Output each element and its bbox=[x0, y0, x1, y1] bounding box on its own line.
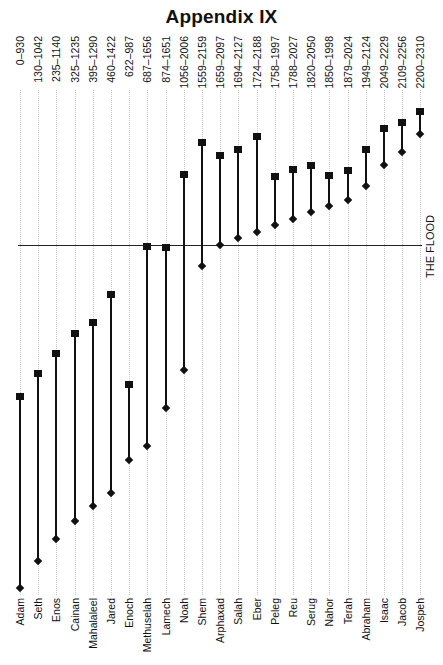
range-label: 622–987 bbox=[123, 36, 135, 77]
death-marker-square bbox=[289, 166, 297, 173]
lifespan-bar bbox=[383, 128, 385, 165]
death-marker-square bbox=[216, 152, 224, 159]
name-label: Peleg bbox=[269, 598, 281, 625]
range-label: 1850–1998 bbox=[323, 36, 335, 89]
birth-marker-diamond bbox=[161, 403, 169, 411]
name-label: Jospeh bbox=[414, 598, 426, 632]
range-label: 687–1656 bbox=[141, 36, 153, 83]
lifespan-bar bbox=[365, 149, 367, 185]
death-marker-square bbox=[416, 108, 424, 115]
name-label: Nahor bbox=[323, 598, 335, 627]
birth-marker-diamond bbox=[198, 262, 206, 270]
death-marker-square bbox=[344, 167, 352, 174]
birth-marker-diamond bbox=[89, 502, 97, 510]
name-label: Methuselah bbox=[141, 598, 153, 652]
birth-marker-diamond bbox=[307, 208, 315, 216]
name-label: Enoch bbox=[123, 598, 135, 628]
death-marker-square bbox=[52, 350, 60, 357]
birth-marker-diamond bbox=[416, 129, 424, 137]
birth-marker-diamond bbox=[343, 196, 351, 204]
range-label: 1758–1997 bbox=[269, 36, 281, 89]
birth-marker-diamond bbox=[107, 489, 115, 497]
name-label: Cainan bbox=[69, 598, 81, 631]
range-label: 0–930 bbox=[14, 36, 26, 65]
birth-marker-diamond bbox=[289, 215, 297, 223]
death-marker-square bbox=[380, 125, 388, 132]
range-label: 1724–2188 bbox=[251, 36, 263, 89]
name-label: Seth bbox=[32, 598, 44, 620]
name-label: Lamech bbox=[160, 598, 172, 635]
range-label: 2109–2256 bbox=[396, 36, 408, 89]
flood-label: THE FLOOD bbox=[424, 215, 436, 278]
death-marker-square bbox=[325, 172, 333, 179]
name-label: Isaac bbox=[378, 598, 390, 623]
birth-marker-diamond bbox=[125, 455, 133, 463]
timeline-plot: THE FLOOD0–930Adam130–1042Seth235–1140En… bbox=[0, 0, 443, 665]
lifespan-bar bbox=[37, 373, 39, 561]
range-label: 1694–2127 bbox=[232, 36, 244, 89]
lifespan-bar bbox=[292, 169, 294, 218]
lifespan-bar bbox=[92, 322, 94, 507]
range-label: 395–1290 bbox=[87, 36, 99, 83]
range-label: 1820–2050 bbox=[305, 36, 317, 89]
name-label: Reu bbox=[287, 598, 299, 617]
birth-marker-diamond bbox=[234, 234, 242, 242]
range-label: 130–1042 bbox=[32, 36, 44, 83]
range-label: 2049–2229 bbox=[378, 36, 390, 89]
name-label: Adam bbox=[14, 598, 26, 625]
grid-line bbox=[402, 90, 403, 595]
birth-marker-diamond bbox=[16, 584, 24, 592]
range-label: 1056–2006 bbox=[178, 36, 190, 89]
birth-marker-diamond bbox=[380, 161, 388, 169]
name-label: Jacob bbox=[396, 598, 408, 626]
range-label: 325–1235 bbox=[69, 36, 81, 83]
lifespan-bar bbox=[274, 176, 276, 225]
lifespan-bar bbox=[310, 165, 312, 212]
name-label: Shem bbox=[196, 598, 208, 625]
name-label: Terah bbox=[342, 598, 354, 624]
grid-line bbox=[275, 90, 276, 595]
lifespan-bar bbox=[74, 333, 76, 521]
birth-marker-diamond bbox=[180, 366, 188, 374]
name-label: Salah bbox=[232, 598, 244, 625]
range-label: 1788–2027 bbox=[287, 36, 299, 89]
name-label: Jared bbox=[105, 598, 117, 624]
lifespan-bar bbox=[201, 142, 203, 266]
lifespan-bar bbox=[110, 294, 112, 493]
birth-marker-diamond bbox=[252, 228, 260, 236]
death-marker-square bbox=[271, 173, 279, 180]
lifespan-bar bbox=[183, 174, 185, 370]
range-label: 1879–2024 bbox=[342, 36, 354, 89]
death-marker-square bbox=[234, 146, 242, 153]
grid-line bbox=[420, 90, 421, 595]
range-label: 460–1422 bbox=[105, 36, 117, 83]
grid-line bbox=[348, 90, 349, 595]
lifespan-bar bbox=[128, 384, 130, 459]
death-marker-square bbox=[34, 370, 42, 377]
birth-marker-diamond bbox=[143, 442, 151, 450]
death-marker-square bbox=[253, 133, 261, 140]
grid-line bbox=[329, 90, 330, 595]
name-label: Arphaxad bbox=[214, 598, 226, 643]
death-marker-square bbox=[198, 139, 206, 146]
range-label: 1949–2124 bbox=[360, 36, 372, 89]
lifespan-bar bbox=[146, 246, 148, 446]
lifespan-bar bbox=[165, 247, 167, 407]
lifespan-bar bbox=[256, 136, 258, 232]
death-marker-square bbox=[398, 119, 406, 126]
name-label: Serug bbox=[305, 598, 317, 626]
death-marker-square bbox=[162, 244, 170, 251]
death-marker-square bbox=[125, 381, 133, 388]
name-label: Noah bbox=[178, 598, 190, 623]
birth-marker-diamond bbox=[398, 148, 406, 156]
death-marker-square bbox=[362, 146, 370, 153]
death-marker-square bbox=[107, 291, 115, 298]
birth-marker-diamond bbox=[271, 221, 279, 229]
lifespan-bar bbox=[219, 155, 221, 245]
range-label: 1559–2159 bbox=[196, 36, 208, 89]
name-label: Enos bbox=[50, 598, 62, 622]
birth-marker-diamond bbox=[325, 202, 333, 210]
lifespan-bar bbox=[237, 149, 239, 238]
name-label: Eber bbox=[251, 598, 263, 620]
birth-marker-diamond bbox=[216, 241, 224, 249]
